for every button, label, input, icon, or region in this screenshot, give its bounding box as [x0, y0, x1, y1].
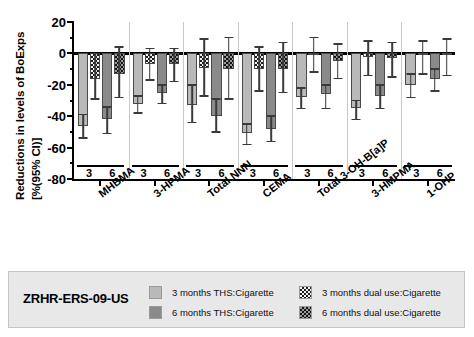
y-tick-label: 0: [59, 46, 66, 61]
subgroup-label: 3: [195, 167, 201, 179]
error-bar-cap: [376, 108, 385, 110]
y-axis-title-line-2: [%(95% CI)]: [30, 138, 42, 200]
error-bar-cap: [133, 95, 142, 97]
y-tick-label: -40: [47, 109, 66, 124]
error-bar: [191, 85, 193, 123]
error-bar-cap: [133, 112, 142, 114]
error-bar-cap: [200, 38, 209, 40]
error-bar-cap: [406, 73, 415, 75]
subgroup-label: 3: [141, 167, 147, 179]
error-bar-cap: [309, 71, 318, 73]
error-bar: [325, 85, 327, 109]
y-axis-title-line-1: Reductions in levels of BoExps: [14, 32, 26, 200]
error-bar: [216, 99, 218, 132]
error-bar-cap: [157, 84, 166, 86]
error-bar-cap: [351, 119, 360, 121]
error-bar-cap: [188, 84, 197, 86]
error-bar-cap: [145, 48, 154, 50]
error-bar-cap: [321, 84, 330, 86]
group-separator: [238, 22, 239, 179]
legend-item-3: 6 months dual use:Cigarette: [299, 306, 441, 319]
error-bar: [119, 47, 121, 97]
y-tick: [67, 21, 74, 23]
error-bar-cap: [254, 90, 263, 92]
error-bar-cap: [170, 81, 179, 83]
error-bar-cap: [430, 90, 439, 92]
error-bar: [228, 38, 230, 99]
y-minor-tick: [70, 131, 74, 133]
error-bar: [107, 107, 109, 134]
legend-label-1: 3 months dual use:Cigarette: [322, 287, 441, 298]
error-bar-cap: [279, 92, 288, 94]
error-bar: [301, 88, 303, 108]
legend-item-2: 6 months THS:Cigarette: [149, 306, 274, 319]
error-bar-cap: [212, 131, 221, 133]
error-bar-cap: [79, 137, 88, 139]
error-bar: [422, 41, 424, 74]
y-axis-title: Reductions in levels of BoExps [%(95% CI…: [0, 0, 52, 210]
legend-swatch-3-months-ths-icon: [149, 286, 162, 299]
error-bar-cap: [388, 76, 397, 78]
error-bar-cap: [297, 108, 306, 110]
error-bar-cap: [267, 141, 276, 143]
error-bar-cap: [442, 38, 451, 40]
legend-swatch-6-months-dual-icon: [299, 306, 312, 319]
error-bar-cap: [430, 68, 439, 70]
error-bar: [173, 49, 175, 82]
y-tick-label: -80: [47, 172, 66, 187]
legend-swatch-3-months-dual-icon: [299, 286, 312, 299]
y-minor-tick: [70, 100, 74, 102]
error-bar-cap: [103, 133, 112, 135]
error-bar-cap: [91, 98, 100, 100]
error-bar-cap: [212, 98, 221, 100]
error-bar: [94, 53, 96, 99]
error-bar-cap: [351, 100, 360, 102]
subgroup-label: 3: [86, 167, 92, 179]
error-bar-cap: [254, 46, 263, 48]
error-bar-cap: [442, 75, 451, 77]
error-bar-cap: [333, 78, 342, 80]
error-bar-cap: [145, 79, 154, 81]
y-tick: [67, 52, 74, 54]
error-bar: [337, 44, 339, 79]
y-minor-tick: [70, 37, 74, 39]
error-bar-cap: [388, 42, 397, 44]
error-bar-cap: [242, 144, 251, 146]
error-bar-cap: [333, 43, 342, 45]
group-separator: [292, 22, 293, 179]
y-tick-label: 20: [52, 15, 66, 30]
error-bar-cap: [321, 108, 330, 110]
error-bar: [446, 39, 448, 75]
error-bar: [379, 85, 381, 109]
y-tick-label: -20: [47, 77, 66, 92]
error-bar: [161, 85, 163, 104]
error-bar-cap: [376, 84, 385, 86]
error-bar-cap: [364, 40, 373, 42]
error-bar-cap: [91, 53, 100, 55]
subgroup-label: 3: [250, 167, 256, 179]
error-bar-cap: [224, 98, 233, 100]
error-bar: [282, 42, 284, 92]
group-separator: [347, 22, 348, 179]
error-bar: [246, 124, 248, 144]
error-bar: [434, 69, 436, 91]
error-bar-cap: [115, 46, 124, 48]
error-bar-cap: [364, 75, 373, 77]
error-bar: [270, 116, 272, 141]
error-bar: [410, 74, 412, 98]
error-bar: [392, 42, 394, 77]
error-bar: [367, 41, 369, 76]
subgroup-label: 3: [413, 167, 419, 179]
legend-study-label: ZRHR-ERS-09-US: [23, 291, 129, 306]
y-minor-tick: [70, 68, 74, 70]
legend-label-3: 6 months dual use:Cigarette: [322, 307, 441, 318]
subgroup-label: 3: [304, 167, 310, 179]
error-bar-cap: [418, 73, 427, 75]
bar: [242, 53, 252, 133]
error-bar: [82, 115, 84, 139]
error-bar-cap: [115, 97, 124, 99]
y-tick: [67, 147, 74, 149]
error-bar: [204, 39, 206, 96]
legend-item-1: 3 months dual use:Cigarette: [299, 286, 441, 299]
y-tick-label: -60: [47, 140, 66, 155]
